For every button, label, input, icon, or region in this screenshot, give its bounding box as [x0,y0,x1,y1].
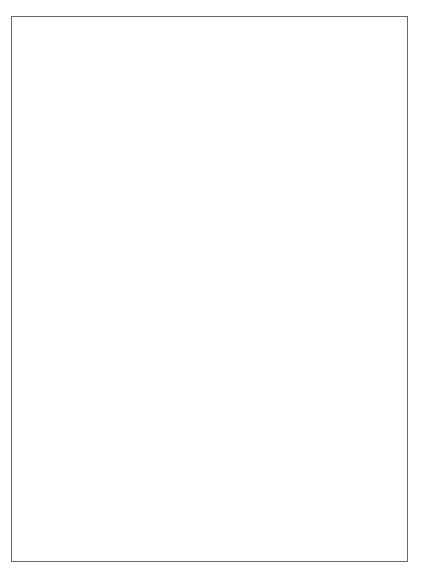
aspect-grid [0,0,423,575]
